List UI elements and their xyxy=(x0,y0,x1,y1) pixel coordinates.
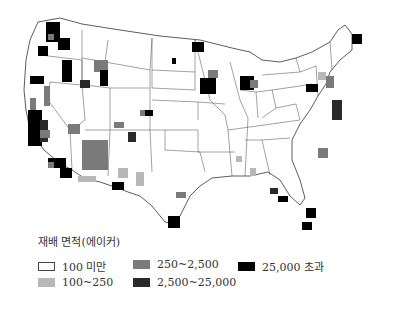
legend-label: 250~2,500 xyxy=(157,258,219,271)
legend-label: 100~250 xyxy=(62,276,113,289)
legend-label: 100 미만 xyxy=(62,258,107,274)
legend-item-gt25000: 25,000 초과 xyxy=(238,258,324,274)
legend-item-100-250: 100~250 xyxy=(38,276,113,289)
legend-swatch-dark-gray xyxy=(133,278,150,287)
us-county-map xyxy=(0,0,394,230)
legend-swatch-light-gray xyxy=(38,278,55,287)
legend-item-250-2500: 250~2,500 xyxy=(133,258,219,271)
legend-item-2500-25000: 2,500~25,000 xyxy=(133,276,236,289)
legend-title: 재배 면적(에이커) xyxy=(38,233,120,249)
us-outline xyxy=(24,18,352,224)
legend-swatch-mid-gray xyxy=(133,260,150,269)
legend-swatch-white xyxy=(38,262,55,271)
legend-swatch-black xyxy=(238,262,255,271)
legend-item-lt100: 100 미만 xyxy=(38,258,107,274)
legend-label: 25,000 초과 xyxy=(262,258,324,274)
legend-label: 2,500~25,000 xyxy=(157,276,236,289)
